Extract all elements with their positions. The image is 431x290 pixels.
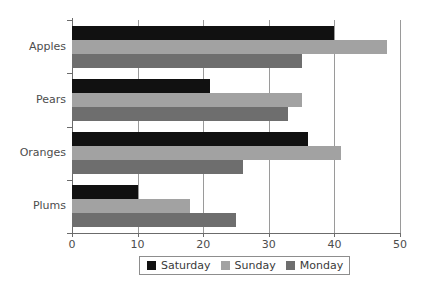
bar-group-apples: [72, 20, 400, 73]
x-axis-line: [72, 233, 401, 234]
bar-group-pears: [72, 73, 400, 126]
bar-oranges-monday: [72, 160, 243, 174]
bar-plums-saturday: [72, 185, 138, 199]
category-label-oranges: Oranges: [2, 147, 66, 159]
bar-oranges-saturday: [72, 132, 308, 146]
x-tick-label-30: 30: [254, 238, 284, 251]
plot-area: [72, 20, 400, 233]
y-axis-category-labels: ApplesPearsOrangesPlums: [0, 20, 66, 233]
x-tick-30: [269, 233, 270, 237]
legend-label-monday: Monday: [300, 260, 343, 271]
bar-pears-saturday: [72, 79, 210, 93]
x-tick-label-0: 0: [57, 238, 87, 251]
legend-swatch-sunday: [220, 260, 231, 271]
x-tick-20: [203, 233, 204, 237]
bar-plums-monday: [72, 213, 236, 227]
legend-label-saturday: Saturday: [161, 260, 211, 271]
x-tick-40: [334, 233, 335, 237]
bar-group-plums: [72, 180, 400, 233]
bar-apples-monday: [72, 54, 302, 68]
x-tick-label-40: 40: [319, 238, 349, 251]
bar-pears-monday: [72, 107, 288, 121]
x-tick-50: [400, 233, 401, 237]
legend-entry-saturday: Saturday: [146, 260, 211, 271]
x-tick-0: [72, 233, 73, 237]
bar-chart: 01020304050 ApplesPearsOrangesPlums Satu…: [0, 0, 431, 290]
gridline-50: [400, 20, 401, 233]
bar-apples-sunday: [72, 40, 387, 54]
y-tick-4: [67, 233, 72, 234]
x-tick-label-10: 10: [123, 238, 153, 251]
category-label-plums: Plums: [2, 200, 66, 212]
bar-plums-sunday: [72, 199, 190, 213]
legend-label-sunday: Sunday: [235, 260, 276, 271]
category-label-pears: Pears: [2, 94, 66, 106]
bar-oranges-sunday: [72, 146, 341, 160]
legend: SaturdaySundayMonday: [139, 256, 350, 275]
x-tick-10: [138, 233, 139, 237]
legend-entry-sunday: Sunday: [220, 260, 276, 271]
x-tick-label-50: 50: [385, 238, 415, 251]
x-tick-label-20: 20: [188, 238, 218, 251]
bar-apples-saturday: [72, 26, 334, 40]
legend-entry-monday: Monday: [285, 260, 343, 271]
category-label-apples: Apples: [2, 41, 66, 53]
bar-group-oranges: [72, 127, 400, 180]
legend-swatch-monday: [285, 260, 296, 271]
bar-pears-sunday: [72, 93, 302, 107]
legend-swatch-saturday: [146, 260, 157, 271]
